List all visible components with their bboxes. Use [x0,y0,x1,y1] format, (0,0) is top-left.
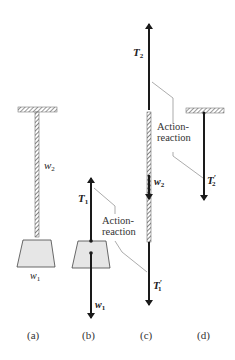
action-reaction-upper-leader-lower [173,152,203,178]
action-reaction-lower-leader-lower [115,241,147,272]
panel-label-b: (b) [82,330,95,341]
action-reaction-lower-leader [94,188,115,214]
panel-label-c: (c) [140,330,152,341]
panel-label-a: (a) [27,330,39,341]
panel-label-d: (d) [197,330,210,341]
ceiling-hatch-a [18,107,57,112]
rope-weight-label: w2 [44,160,55,171]
action-reaction-upper-text: Action- reaction [157,121,191,143]
T1-prime-label: T′1 [153,280,161,291]
block-weight-label: w1 [30,271,40,281]
panel-a [17,107,57,267]
panel-c [147,24,151,305]
action-reaction-upper-leader [152,82,173,124]
panel-d [186,108,224,200]
T2-prime-label: T′2 [207,175,215,186]
attach-point [89,239,93,243]
center-of-mass [89,251,93,255]
ceiling-attach-point [203,112,206,115]
physics-free-body-diagram [0,0,235,360]
T2-label: T2 [133,47,143,58]
T1-label: T1 [78,193,88,204]
rope-a [35,112,39,237]
block-a [17,240,55,267]
w1-vector-label: w1 [95,300,105,310]
action-reaction-lower-text: Action- reaction [102,215,136,237]
w2-vector-label: w2 [154,177,164,187]
